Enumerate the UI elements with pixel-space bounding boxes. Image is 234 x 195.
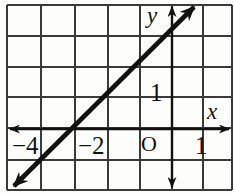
tick-label-y-one: 1 [150,80,163,105]
tick-label-x-one: 1 [195,133,208,158]
tick-label-negative-two: −2 [78,133,105,158]
x-axis-label: x [207,100,217,123]
graph-canvas [0,0,234,195]
tick-label-negative-four: −4 [12,133,39,158]
y-axis-label: y [147,4,157,27]
origin-label: O [141,133,157,155]
coordinate-plane-figure: y x −4 −2 O 1 1 [0,0,234,195]
